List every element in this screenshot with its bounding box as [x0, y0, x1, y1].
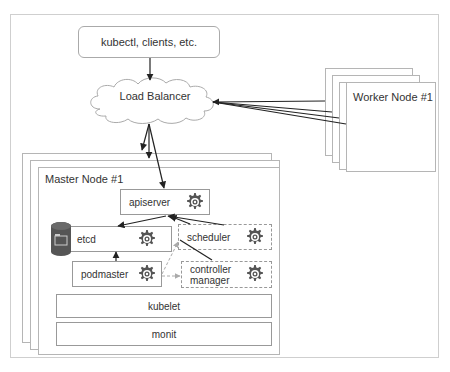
- gear-icon: [246, 265, 264, 283]
- worker-node-1: Worker Node #1: [346, 82, 436, 172]
- clients-box: kubectl, clients, etc.: [78, 26, 220, 58]
- gear-icon: [138, 265, 156, 283]
- monit-bar: monit: [56, 322, 272, 346]
- worker-node-title: Worker Node #1: [353, 91, 433, 103]
- scheduler-label: scheduler: [179, 232, 230, 243]
- kubelet-bar: kubelet: [56, 294, 272, 318]
- clients-label: kubectl, clients, etc.: [101, 36, 197, 48]
- controller-manager-label: controller manager: [182, 264, 231, 286]
- apiserver-label: apiserver: [121, 197, 170, 208]
- load-balancer-label: Load Balancer: [100, 90, 210, 102]
- gear-icon: [246, 228, 264, 246]
- gear-icon: [186, 193, 204, 211]
- master-node-title: Master Node #1: [45, 173, 123, 185]
- gear-icon: [138, 230, 156, 248]
- kubelet-label: kubelet: [148, 301, 180, 312]
- database-cylinder-icon: [50, 221, 72, 257]
- monit-label: monit: [152, 329, 176, 340]
- podmaster-label: podmaster: [73, 269, 128, 280]
